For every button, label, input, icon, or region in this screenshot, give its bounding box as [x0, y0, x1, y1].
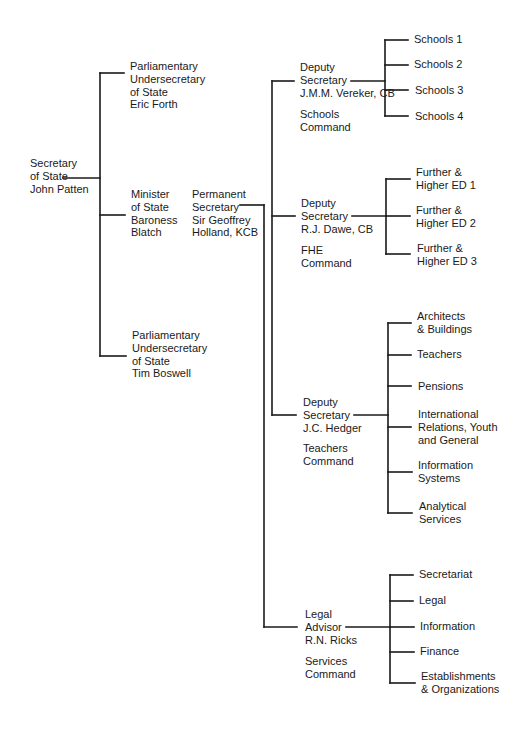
- node-line: J.M.M. Vereker, CB: [300, 87, 395, 100]
- leaf-line: Teachers: [417, 348, 462, 361]
- leaf-finance: Finance: [420, 645, 459, 658]
- node-line: Legal: [305, 608, 357, 621]
- leaf-line: Legal: [419, 594, 446, 607]
- leaf-line: Architects: [417, 310, 472, 323]
- node-permanent-secretary: Permanent Secretary Sir Geoffrey Holland…: [192, 188, 258, 239]
- leaf-line: Services: [419, 513, 466, 526]
- command-label-services: Services Command: [305, 655, 356, 681]
- node-line: Sir Geoffrey: [192, 214, 258, 227]
- node-line: J.C. Hedger: [303, 422, 362, 435]
- leaf-line: Pensions: [418, 380, 463, 393]
- node-line: Tim Boswell: [132, 367, 207, 380]
- node-line: Deputy: [301, 197, 373, 210]
- leaf-line: Relations, Youth: [418, 421, 498, 434]
- leaf-fhe-1: Further & Higher ED 1: [416, 166, 476, 192]
- node-line: Undersecretary: [132, 342, 207, 355]
- node-line: Advisor: [305, 621, 357, 634]
- leaf-line: & Buildings: [417, 323, 472, 336]
- leaf-line: and General: [418, 434, 498, 447]
- command-line: FHE: [301, 244, 352, 257]
- leaf-line: Establishments: [421, 670, 499, 683]
- leaf-line: Schools 3: [415, 84, 463, 97]
- node-undersecretary-boswell: Parliamentary Undersecretary of State Ti…: [132, 329, 207, 380]
- node-line: Blatch: [131, 226, 177, 239]
- leaf-line: & Organizations: [421, 683, 499, 696]
- node-line: Parliamentary: [130, 60, 205, 73]
- node-line: Minister: [131, 188, 177, 201]
- node-deputy-hedger: Deputy Secretary J.C. Hedger: [303, 396, 362, 434]
- leaf-line: Information: [418, 459, 473, 472]
- node-line: Secretary: [300, 74, 395, 87]
- leaf-international-relations: International Relations, Youth and Gener…: [418, 408, 498, 446]
- command-line: Services: [305, 655, 356, 668]
- leaf-line: Finance: [420, 645, 459, 658]
- leaf-teachers: Teachers: [417, 348, 462, 361]
- command-label-schools: Schools Command: [300, 108, 351, 134]
- leaf-information-systems: Information Systems: [418, 459, 473, 485]
- leaf-schools-3: Schools 3: [415, 84, 463, 97]
- leaf-legal: Legal: [419, 594, 446, 607]
- command-line: Command: [303, 455, 354, 468]
- node-secretary-of-state: Secretary of State John Patten: [30, 157, 89, 195]
- command-line: Command: [305, 668, 356, 681]
- command-label-fhe: FHE Command: [301, 244, 352, 270]
- command-label-teachers: Teachers Command: [303, 442, 354, 468]
- leaf-line: Further &: [417, 242, 477, 255]
- leaf-line: Information: [420, 620, 475, 633]
- org-chart: Secretary of State John Patten Parliamen…: [0, 0, 513, 733]
- leaf-establishments-organizations: Establishments & Organizations: [421, 670, 499, 696]
- leaf-fhe-2: Further & Higher ED 2: [416, 204, 476, 230]
- node-line: Secretary: [30, 157, 89, 170]
- node-line: R.J. Dawe, CB: [301, 223, 373, 236]
- leaf-schools-1: Schools 1: [414, 33, 462, 46]
- command-line: Command: [300, 121, 351, 134]
- leaf-information: Information: [420, 620, 475, 633]
- leaf-line: Secretariat: [419, 568, 472, 581]
- leaf-line: Analytical: [419, 500, 466, 513]
- node-legal-advisor-ricks: Legal Advisor R.N. Ricks: [305, 608, 357, 646]
- leaf-line: Schools 2: [414, 58, 462, 71]
- node-line: of State: [30, 170, 89, 183]
- command-line: Schools: [300, 108, 351, 121]
- leaf-analytical-services: Analytical Services: [419, 500, 466, 526]
- leaf-pensions: Pensions: [418, 380, 463, 393]
- node-line: Secretary: [301, 210, 373, 223]
- node-line: Secretary: [192, 201, 258, 214]
- leaf-line: Systems: [418, 472, 473, 485]
- node-line: Deputy: [300, 61, 395, 74]
- leaf-schools-4: Schools 4: [415, 110, 463, 123]
- leaf-line: Higher ED 1: [416, 179, 476, 192]
- leaf-line: Schools 4: [415, 110, 463, 123]
- node-deputy-dawe: Deputy Secretary R.J. Dawe, CB: [301, 197, 373, 235]
- node-line: Baroness: [131, 214, 177, 227]
- node-line: of State: [130, 86, 205, 99]
- leaf-line: Further &: [416, 166, 476, 179]
- leaf-line: Higher ED 2: [416, 217, 476, 230]
- node-line: of State: [131, 201, 177, 214]
- node-line: of State: [132, 355, 207, 368]
- leaf-line: Schools 1: [414, 33, 462, 46]
- node-line: Undersecretary: [130, 73, 205, 86]
- node-line: Parliamentary: [132, 329, 207, 342]
- leaf-secretariat: Secretariat: [419, 568, 472, 581]
- node-line: Secretary: [303, 409, 362, 422]
- command-line: Teachers: [303, 442, 354, 455]
- node-line: Deputy: [303, 396, 362, 409]
- command-line: Command: [301, 257, 352, 270]
- leaf-line: Further &: [416, 204, 476, 217]
- node-line: John Patten: [30, 183, 89, 196]
- node-line: R.N. Ricks: [305, 634, 357, 647]
- leaf-line: International: [418, 408, 498, 421]
- node-undersecretary-forth: Parliamentary Undersecretary of State Er…: [130, 60, 205, 111]
- leaf-fhe-3: Further & Higher ED 3: [417, 242, 477, 268]
- node-minister-blatch: Minister of State Baroness Blatch: [131, 188, 177, 239]
- node-line: Holland, KCB: [192, 226, 258, 239]
- node-line: Permanent: [192, 188, 258, 201]
- node-deputy-vereker: Deputy Secretary J.M.M. Vereker, CB: [300, 61, 395, 99]
- leaf-schools-2: Schools 2: [414, 58, 462, 71]
- leaf-line: Higher ED 3: [417, 255, 477, 268]
- leaf-architects-buildings: Architects & Buildings: [417, 310, 472, 336]
- node-line: Eric Forth: [130, 98, 205, 111]
